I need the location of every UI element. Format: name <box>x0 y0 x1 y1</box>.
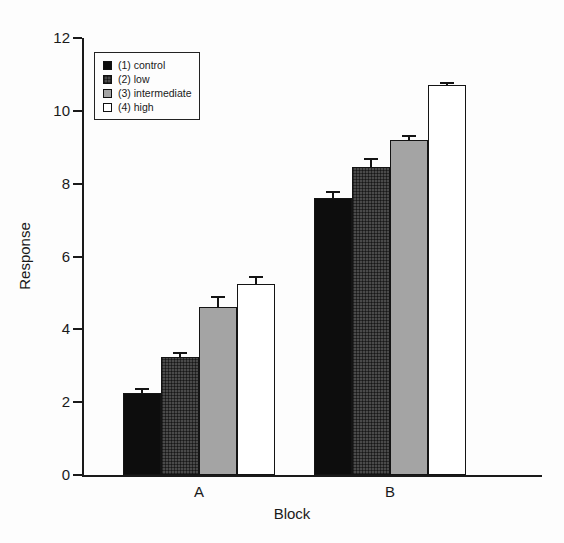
legend-swatch-2-filled-square-icon <box>103 75 112 84</box>
y-axis-tick <box>73 37 82 39</box>
legend-label: (2) low <box>118 74 150 85</box>
x-axis-title: Block <box>274 505 311 522</box>
y-tick-label: 4 <box>34 320 70 338</box>
error-bar-cap <box>173 352 187 354</box>
y-axis-tick <box>73 474 82 476</box>
bar-A-3 <box>199 307 237 475</box>
bar-B-2 <box>352 167 390 475</box>
y-axis-tick <box>73 256 82 258</box>
error-bar-cap <box>249 276 263 278</box>
error-bar-cap <box>440 82 454 84</box>
legend-item: (3) intermediate <box>103 88 191 99</box>
x-category-label: B <box>376 483 404 500</box>
bar-B-1 <box>314 198 352 475</box>
legend-item: (2) low <box>103 74 191 85</box>
bar-B-4 <box>428 85 466 475</box>
error-bar-cap <box>135 388 149 390</box>
y-axis-title: Response <box>16 222 33 290</box>
bar-B-3 <box>390 140 428 475</box>
error-bar-stem <box>370 159 372 167</box>
legend-swatch-3-filled-square-icon <box>103 89 112 98</box>
legend-item: (4) high <box>103 102 191 113</box>
y-axis-tick <box>73 110 82 112</box>
legend: (1) control(2) low(3) intermediate(4) hi… <box>94 52 200 120</box>
y-tick-label: 8 <box>34 175 70 193</box>
error-bar-cap <box>402 135 416 137</box>
legend-label: (4) high <box>118 102 154 113</box>
bar-A-4 <box>237 284 275 475</box>
y-tick-label: 2 <box>34 393 70 411</box>
bar-chart-figure: 024681012AB Response Block (1) control(2… <box>0 0 564 543</box>
y-tick-label: 6 <box>34 248 70 266</box>
error-bar-stem <box>217 297 219 307</box>
y-axis-tick <box>73 183 82 185</box>
legend-label: (3) intermediate <box>118 88 192 99</box>
y-axis-tick <box>73 328 82 330</box>
legend-item: (1) control <box>103 60 191 71</box>
y-tick-label: 0 <box>34 466 70 484</box>
x-category-label: A <box>185 483 213 500</box>
error-bar-cap <box>211 296 225 298</box>
legend-swatch-4-open-square-icon <box>103 103 112 112</box>
y-tick-label: 12 <box>34 29 70 47</box>
bar-A-1 <box>123 393 161 475</box>
error-bar-cap <box>364 158 378 160</box>
legend-swatch-1-filled-square-icon <box>103 61 112 70</box>
y-tick-label: 10 <box>34 102 70 120</box>
y-axis-tick <box>73 401 82 403</box>
bar-A-2 <box>161 357 199 475</box>
error-bar-cap <box>326 191 340 193</box>
legend-label: (1) control <box>118 60 165 71</box>
